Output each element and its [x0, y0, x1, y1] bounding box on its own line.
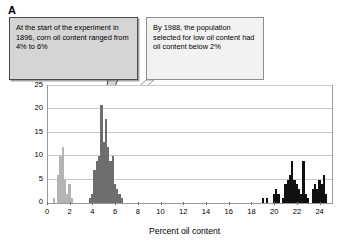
y-tick-label: 5	[21, 174, 43, 183]
gridline	[48, 85, 332, 86]
callout-1896: At the start of the experiment in 1896, …	[9, 17, 138, 80]
histogram-bar	[307, 198, 309, 203]
x-tick-label: 24	[312, 207, 328, 216]
x-tick-mark	[115, 202, 116, 205]
y-tick-label: 10	[21, 150, 43, 159]
y-tick-label: 25	[21, 80, 43, 89]
x-tick-mark	[274, 202, 275, 205]
x-tick-label: 6	[107, 207, 123, 216]
x-tick-label: 10	[153, 207, 169, 216]
x-tick-label: 8	[130, 207, 146, 216]
histogram-bar	[71, 198, 73, 203]
x-tick-mark	[92, 202, 93, 205]
x-tick-label: 18	[243, 207, 259, 216]
x-tick-mark	[47, 202, 48, 205]
x-tick-label: 16	[221, 207, 237, 216]
panel-label: A	[8, 4, 16, 16]
y-tick-label: 0	[21, 197, 43, 206]
x-axis-label: Percent oil content	[0, 226, 343, 236]
x-tick-mark	[70, 202, 71, 205]
gridline	[48, 108, 332, 109]
x-tick-label: 14	[198, 207, 214, 216]
x-tick-label: 20	[266, 207, 282, 216]
x-tick-mark	[206, 202, 207, 205]
gridline	[48, 132, 332, 133]
gridline	[48, 155, 332, 156]
y-tick-label: 20	[21, 103, 43, 112]
histogram-bar	[121, 198, 123, 203]
x-tick-mark	[320, 202, 321, 205]
x-tick-label: 4	[84, 207, 100, 216]
x-tick-label: 0	[39, 207, 55, 216]
histogram-bar	[266, 198, 268, 203]
figure-panel-a: A At the start of the experiment in 1896…	[0, 0, 343, 248]
x-tick-mark	[138, 202, 139, 205]
x-tick-label: 2	[62, 207, 78, 216]
histogram-bar	[53, 198, 55, 203]
x-tick-mark	[229, 202, 230, 205]
histogram-bar	[325, 194, 327, 203]
x-tick-mark	[297, 202, 298, 205]
histogram-bar	[262, 198, 264, 203]
callout-1988: By 1988, the population selected for low…	[146, 17, 264, 80]
y-tick-label: 15	[21, 127, 43, 136]
x-tick-mark	[251, 202, 252, 205]
x-tick-mark	[161, 202, 162, 205]
x-tick-mark	[183, 202, 184, 205]
histogram-bar	[277, 194, 279, 203]
x-tick-label: 22	[289, 207, 305, 216]
histogram-plot-area	[47, 85, 333, 204]
x-tick-label: 12	[175, 207, 191, 216]
